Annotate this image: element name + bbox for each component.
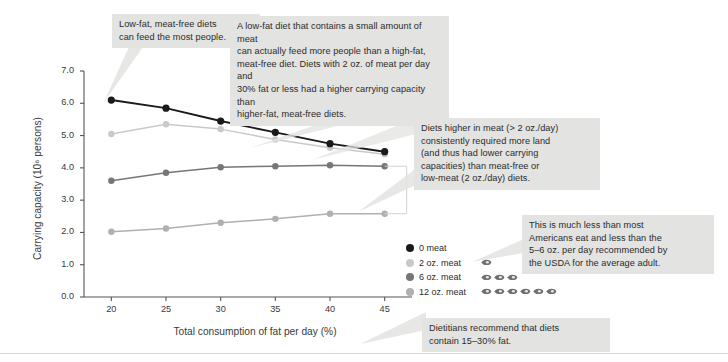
data-point [108, 178, 114, 184]
x-axis-title: Total consumption of fat per day (%) [140, 326, 370, 337]
data-point [163, 225, 169, 231]
y-tick-label: 4.0 [46, 162, 74, 172]
data-point [217, 117, 224, 124]
meat-cut-icon [533, 288, 544, 295]
meat-portion-icons [481, 259, 492, 266]
y-tick-label: 3.0 [46, 194, 74, 204]
x-tick-label: 30 [208, 304, 234, 314]
series-line [111, 165, 384, 180]
legend-swatch-icon [406, 244, 414, 252]
data-point [217, 164, 223, 170]
legend-label: 12 oz. meat [419, 287, 481, 297]
legend-item-1[interactable]: 2 oz. meat [406, 256, 557, 270]
meat-cut-icon [494, 288, 505, 295]
meat-cut-icon [507, 288, 518, 295]
series-12-oz-meat [108, 211, 388, 235]
data-point [108, 131, 114, 137]
y-tick-label: 1.0 [46, 259, 74, 269]
series-6-oz-meat [108, 162, 388, 184]
legend-label: 2 oz. meat [419, 258, 481, 268]
data-point [163, 121, 169, 127]
legend-item-0[interactable]: 0 meat [406, 241, 557, 255]
chart-figure: Carrying capacity (10⁶ persons) Total co… [0, 0, 728, 362]
meat-portion-icons [481, 274, 518, 281]
data-point [217, 126, 223, 132]
data-point [108, 229, 114, 235]
series-line [111, 214, 384, 232]
callout-middle-right: Diets higher in meat (> 2 oz./day) consi… [414, 118, 600, 190]
y-axis-title: Carrying capacity (10⁶ persons) [32, 89, 43, 289]
data-point [327, 162, 333, 168]
data-point [217, 220, 223, 226]
data-point [162, 105, 169, 112]
x-tick-label: 40 [317, 304, 343, 314]
pointer-middle-right [352, 160, 422, 220]
legend-item-2[interactable]: 6 oz. meat [406, 270, 557, 284]
legend-swatch-icon [406, 259, 414, 267]
y-tick-label: 0.0 [46, 291, 74, 301]
legend-swatch-icon [406, 273, 414, 281]
y-tick-label: 6.0 [46, 97, 74, 107]
pointer-bottom [356, 310, 426, 350]
data-point [272, 163, 278, 169]
meat-portion-icons [481, 288, 557, 295]
x-tick-label: 25 [153, 304, 179, 314]
x-tick-label: 35 [262, 304, 288, 314]
meat-cut-icon [546, 288, 557, 295]
legend-swatch-icon [406, 288, 414, 296]
y-tick-label: 7.0 [46, 65, 74, 75]
pointer-top-left [96, 40, 156, 102]
meat-cut-icon [494, 274, 505, 281]
meat-cut-icon [520, 288, 531, 295]
legend-label: 6 oz. meat [419, 272, 481, 282]
meat-cut-icon [481, 288, 492, 295]
callout-bottom: Dietitians recommend that diets contain … [422, 318, 610, 352]
legend-item-3[interactable]: 12 oz. meat [406, 285, 557, 299]
y-tick-label: 5.0 [46, 130, 74, 140]
chart-legend: 0 meat2 oz. meat6 oz. meat12 oz. meat [406, 241, 557, 299]
meat-cut-icon [481, 274, 492, 281]
data-point [327, 211, 333, 217]
data-point [163, 170, 169, 176]
meat-cut-icon [507, 274, 518, 281]
legend-label: 0 meat [419, 243, 481, 253]
meat-cut-icon [481, 259, 492, 266]
data-point [272, 216, 278, 222]
y-tick-label: 2.0 [46, 226, 74, 236]
x-tick-label: 20 [98, 304, 124, 314]
callout-top-right: A low-fat diet that contains a small amo… [230, 16, 449, 126]
